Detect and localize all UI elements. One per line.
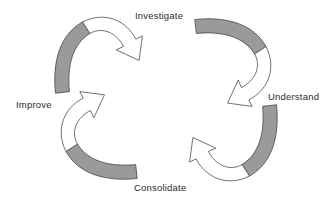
stage-label-improve: Improve <box>16 99 52 110</box>
arrow-understand-to-consolidate <box>190 105 278 181</box>
arrow-improve-to-investigate <box>55 17 143 93</box>
stage-label-consolidate: Consolidate <box>134 182 186 193</box>
cycle-diagram: Investigate Understand Consolidate Impro… <box>0 0 332 206</box>
stage-label-understand: Understand <box>268 91 319 102</box>
stage-label-investigate: Investigate <box>135 10 183 21</box>
arrow-consolidate-to-improve <box>61 92 137 180</box>
arrow-investigate-to-understand <box>195 19 271 107</box>
